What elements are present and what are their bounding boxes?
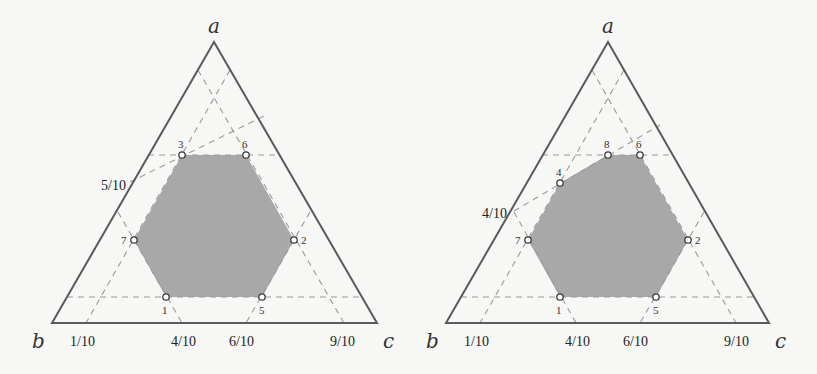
point-2: [291, 237, 297, 243]
vertex-label-a: a: [208, 14, 220, 38]
right-ternary-diagram: 1 2 4 5 6 7 8 a b c 1/10 4/10 6/10 9/10 …: [426, 14, 786, 353]
point-label-7: 7: [515, 234, 521, 246]
vertex-label-a: a: [602, 14, 614, 38]
point-7: [525, 237, 531, 243]
tick-label-4-10: 4/10: [565, 334, 590, 349]
vertex-label-c: c: [775, 329, 786, 353]
point-7: [131, 237, 137, 243]
tick-label-9-10: 9/10: [724, 334, 749, 349]
vertex-label-b: b: [32, 329, 45, 353]
point-label-8: 8: [604, 138, 610, 150]
tick-label-6-10: 6/10: [623, 334, 648, 349]
tick-label-4-10: 4/10: [171, 334, 196, 349]
point-label-1: 1: [162, 304, 168, 316]
tick-label-9-10: 9/10: [330, 334, 355, 349]
tick-label-1-10: 1/10: [70, 334, 95, 349]
side-tick-label-5-10: 5/10: [101, 178, 126, 193]
point-label-2: 2: [301, 234, 307, 246]
point-label-6: 6: [636, 138, 642, 150]
side-tick-label-4-10: 4/10: [482, 206, 507, 221]
vertex-label-c: c: [383, 329, 394, 353]
point-label-5: 5: [259, 304, 265, 316]
ternary-diagrams-canvas: 1 2 3 5 6 7 a b c 1/10 4/10 6/10 9/10 5/…: [0, 0, 817, 374]
tick-label-6-10: 6/10: [229, 334, 254, 349]
point-label-4: 4: [556, 166, 562, 178]
point-1: [557, 294, 563, 300]
point-label-6: 6: [242, 138, 248, 150]
vertex-label-b: b: [426, 329, 439, 353]
feasible-region-heptagon: [528, 155, 688, 297]
point-5: [259, 294, 265, 300]
point-6: [243, 152, 249, 158]
point-label-1: 1: [556, 304, 562, 316]
point-label-2: 2: [695, 234, 701, 246]
left-ternary-diagram: 1 2 3 5 6 7 a b c 1/10 4/10 6/10 9/10 5/…: [32, 14, 394, 353]
point-label-7: 7: [121, 234, 127, 246]
point-2: [685, 237, 691, 243]
point-5: [653, 294, 659, 300]
point-label-3: 3: [178, 138, 184, 150]
point-6: [637, 152, 643, 158]
tick-label-1-10: 1/10: [464, 334, 489, 349]
point-1: [163, 294, 169, 300]
point-4: [557, 180, 563, 186]
point-label-5: 5: [653, 304, 659, 316]
point-8: [605, 152, 611, 158]
point-3: [179, 152, 185, 158]
feasible-region-hexagon: [134, 155, 294, 297]
